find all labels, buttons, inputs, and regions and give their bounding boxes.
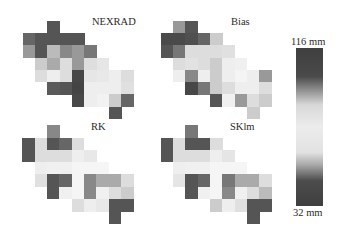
heatmap-cell [60, 33, 73, 46]
heatmap-cell [35, 162, 48, 175]
heatmap-cell [198, 70, 211, 83]
heatmap-cell [222, 174, 235, 187]
heatmap-cell [235, 187, 248, 200]
heatmap-cell [210, 199, 223, 212]
heatmap-cell [210, 187, 223, 200]
heatmap-cell [198, 187, 211, 200]
heatmap-cell [121, 174, 134, 187]
heatmap-cell [97, 94, 110, 107]
panel-title-bias: Bias [231, 17, 250, 28]
heatmap-cell [72, 174, 85, 187]
heatmap-cell [173, 150, 186, 163]
heatmap-cell [35, 45, 48, 58]
heatmap-cell [173, 174, 186, 187]
heatmap-cell [47, 138, 60, 151]
colorbar [296, 48, 323, 206]
heatmap-cell [35, 174, 48, 187]
heatmap-cell [35, 33, 48, 46]
heatmap-cell [84, 162, 97, 175]
heatmap-cell [84, 82, 97, 95]
heatmap-cell [109, 211, 122, 224]
heatmap-cell [235, 174, 248, 187]
heatmap-cell [222, 70, 235, 83]
panel-rk [22, 125, 134, 225]
heatmap-cell [22, 150, 35, 163]
heatmap-cell [121, 187, 134, 200]
heatmap-cell [210, 70, 223, 83]
heatmap-cell [121, 94, 134, 107]
heatmap-cell [173, 21, 186, 34]
heatmap-cell [198, 33, 211, 46]
heatmap-cell [198, 138, 211, 151]
heatmap-cell [185, 82, 198, 95]
heatmap-cell [259, 82, 272, 95]
heatmap-cell [84, 187, 97, 200]
heatmap-cell [210, 150, 223, 163]
heatmap-cell [185, 70, 198, 83]
heatmap-cell [47, 162, 60, 175]
heatmap-cell [97, 58, 110, 71]
heatmap-cell [210, 33, 223, 46]
heatmap-cell [47, 125, 60, 138]
heatmap-cell [185, 58, 198, 71]
heatmap-cell [173, 45, 186, 58]
heatmap-cell [96, 187, 109, 200]
heatmap-cell [185, 162, 198, 175]
heatmap-cell [84, 94, 97, 107]
heatmap-cell [235, 82, 248, 95]
heatmap-cell [198, 150, 211, 163]
heatmap-cell [109, 70, 122, 83]
heatmap-cell [185, 150, 198, 163]
heatmap-cell [96, 199, 109, 212]
heatmap-cell [59, 174, 72, 187]
panel-title-nexrad: NEXRAD [92, 17, 136, 28]
heatmap-cell [222, 162, 235, 175]
heatmap-cell [60, 45, 73, 58]
heatmap-cell [84, 174, 97, 187]
heatmap-cell [109, 82, 122, 95]
heatmap-cell [47, 45, 60, 58]
heatmap-cell [72, 187, 85, 200]
heatmap-cell [222, 150, 235, 163]
heatmap-cell [161, 45, 174, 58]
heatmap-cell [161, 138, 174, 151]
colorbar-min-label: 32 mm [293, 208, 322, 219]
heatmap-cell [235, 58, 248, 71]
heatmap-cell [247, 174, 260, 187]
heatmap-cell [247, 94, 260, 107]
heatmap-cell [210, 94, 223, 107]
heatmap-cell [109, 94, 122, 107]
heatmap-cell [84, 150, 97, 163]
heatmap-cell [47, 82, 60, 95]
heatmap-cell [59, 187, 72, 200]
heatmap-cell [259, 199, 272, 212]
heatmap-cell [47, 33, 60, 46]
heatmap-cell [72, 58, 85, 71]
heatmap-cell [84, 45, 97, 58]
heatmap-cell [35, 150, 48, 163]
heatmap-cell [235, 199, 248, 212]
heatmap-cell [247, 107, 260, 120]
heatmap-cell [97, 70, 110, 83]
heatmap-cell [59, 150, 72, 163]
heatmap-cell [173, 33, 186, 46]
heatmap-cell [72, 162, 85, 175]
heatmap-cell [173, 58, 186, 71]
heatmap-cell [185, 33, 198, 46]
heatmap-cell [97, 82, 110, 95]
heatmap-cell [173, 162, 186, 175]
heatmap-cell [222, 45, 235, 58]
heatmap-cell [47, 150, 60, 163]
heatmap-cell [72, 199, 85, 212]
heatmap-cell [259, 70, 272, 83]
heatmap-cell [210, 138, 223, 151]
heatmap-cell [35, 70, 48, 83]
heatmap-cell [72, 33, 85, 46]
colorbar-max-label: 116 mm [291, 37, 325, 48]
heatmap-cell [161, 150, 174, 163]
heatmap-cell [47, 58, 60, 71]
heatmap-cell [84, 58, 97, 71]
heatmap-cell [121, 199, 134, 212]
heatmap-cell [121, 82, 134, 95]
heatmap-cell [247, 199, 260, 212]
